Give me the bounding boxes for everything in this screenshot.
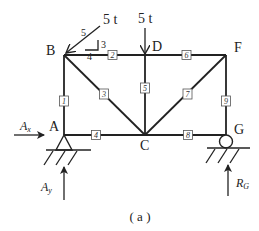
ground-hatch-icon (206, 149, 239, 163)
member-label-6: 6 (182, 51, 191, 61)
slope-triangle-icon (85, 40, 98, 50)
member-label-2: 2 (108, 51, 117, 61)
reaction-ax: Ax (14, 119, 44, 135)
node-label-d: D (152, 39, 162, 54)
svg-text:Ax: Ax (19, 119, 31, 134)
roller-support-g (206, 135, 250, 163)
member-label-9: 9 (222, 96, 231, 106)
member-label-3: 3 (100, 89, 109, 99)
reaction-ay: Ay (40, 167, 64, 200)
svg-text:4: 4 (94, 131, 98, 140)
reaction-rg: RG (228, 165, 249, 196)
pin-support-icon (56, 135, 72, 150)
truss-diagram: 1 2 3 4 5 6 7 8 (0, 0, 259, 231)
node-label-a: A (49, 119, 60, 134)
svg-text:RG: RG (235, 176, 249, 191)
svg-text:3: 3 (101, 90, 106, 99)
member-label-4: 4 (92, 131, 101, 141)
member-label-8: 8 (184, 131, 193, 141)
slope-run-label: 4 (87, 51, 92, 62)
svg-text:8: 8 (186, 131, 190, 140)
node-label-g: G (234, 122, 244, 137)
node-label-f: F (234, 40, 242, 55)
node-label-c: C (140, 138, 149, 153)
member-label-5: 5 (141, 83, 150, 93)
svg-text:5: 5 (143, 84, 147, 93)
svg-text:Ay: Ay (40, 180, 52, 195)
svg-text:9: 9 (224, 97, 228, 106)
figure-caption: ( a ) (130, 209, 151, 224)
node-label-b: B (46, 43, 55, 58)
pin-support-a (44, 135, 91, 165)
vertical-load-magnitude: 5 t (138, 11, 153, 26)
inclined-load-magnitude: 5 t (103, 12, 118, 27)
member-label-1: 1 (60, 96, 69, 106)
roller-support-icon (220, 135, 233, 148)
slope-rise-label: 3 (101, 39, 106, 50)
svg-text:6: 6 (185, 51, 189, 60)
slope-hyp-label: 5 (81, 27, 86, 38)
vertical-load-at-d: 5 t (138, 11, 153, 54)
svg-text:2: 2 (111, 51, 115, 60)
svg-text:1: 1 (62, 97, 66, 106)
truss-members (64, 55, 226, 135)
member-label-7: 7 (183, 89, 192, 99)
ground-hatch-icon (44, 151, 77, 165)
